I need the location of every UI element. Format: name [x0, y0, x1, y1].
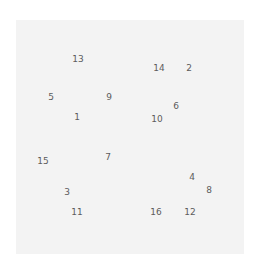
number-label: 6 [173, 102, 179, 111]
number-label: 8 [206, 186, 212, 195]
number-label: 3 [64, 188, 70, 197]
number-label: 14 [153, 64, 164, 73]
number-label: 5 [48, 93, 54, 102]
number-label: 12 [184, 208, 195, 217]
number-label: 7 [105, 153, 111, 162]
number-label: 10 [151, 115, 162, 124]
number-label: 1 [74, 113, 80, 122]
number-label: 15 [37, 157, 48, 166]
number-label: 9 [106, 93, 112, 102]
number-label: 2 [186, 64, 192, 73]
number-label: 16 [150, 208, 161, 217]
number-panel [16, 20, 244, 254]
number-label: 13 [72, 55, 83, 64]
number-label: 11 [71, 208, 82, 217]
number-label: 4 [189, 173, 195, 182]
